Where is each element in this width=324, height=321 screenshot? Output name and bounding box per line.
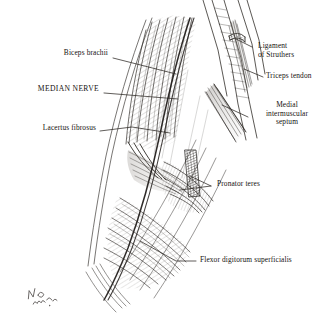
label-median-nerve: MEDIAN NERVE: [0, 85, 99, 94]
label-ligament-of-struthers: Ligament of Struthers: [258, 42, 294, 59]
label-medial-intermuscular-septum-line3: septum: [252, 118, 322, 127]
label-pronator-teres: Pronator teres: [217, 180, 260, 189]
label-triceps-tendon: Triceps tendon: [266, 72, 312, 81]
label-lacertus-fibrosus: Lacertus fibrosus: [0, 124, 96, 133]
label-biceps-brachii: Biceps brachii: [0, 49, 108, 58]
label-flexor-digitorum-superficialis: Flexor digitorum superficialis: [200, 256, 292, 265]
label-ligament-of-struthers-line2: of Struthers: [258, 51, 294, 60]
label-medial-intermuscular-septum: Medial intermuscular septum: [252, 101, 322, 127]
anatomical-figure: Biceps brachii MEDIAN NERVE Lacertus fib…: [0, 0, 324, 321]
